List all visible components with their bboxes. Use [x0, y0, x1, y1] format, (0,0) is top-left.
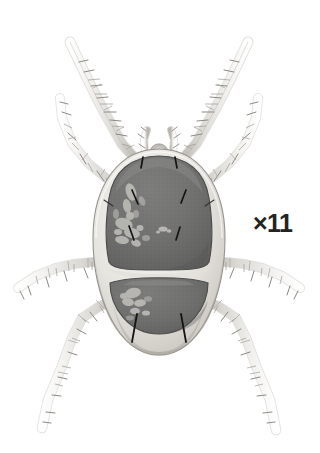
leg-I-left	[70, 42, 139, 163]
leg-IV-left	[42, 300, 118, 428]
magnification-label: ×11	[253, 211, 293, 236]
idiosoma	[93, 149, 225, 356]
leg-IV-right	[200, 300, 276, 430]
leg-I-right	[179, 42, 248, 163]
